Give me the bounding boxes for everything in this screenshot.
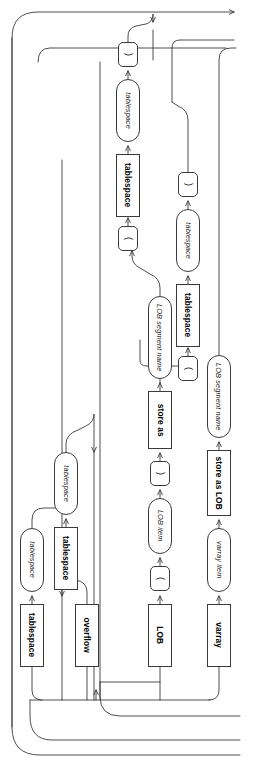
- paren-close-storage-left[interactable]: ): [118, 42, 138, 67]
- keyword-store-as-lob[interactable]: store as LOB: [207, 450, 231, 516]
- node-label: store as: [156, 404, 164, 437]
- keyword-tablespace-1[interactable]: tablespace: [20, 604, 44, 667]
- node-label: LOB item: [156, 510, 163, 542]
- keyword-tablespace-3[interactable]: tablespace: [176, 284, 200, 347]
- nonterminal-lob-segment-name-2[interactable]: LOB segment name: [207, 355, 231, 438]
- keyword-store-as[interactable]: store as: [148, 391, 172, 449]
- node-label: (: [184, 367, 193, 370]
- paren-open-storage-left[interactable]: (: [118, 226, 138, 251]
- nonterminal-tablespace-3[interactable]: tablespace: [176, 209, 200, 272]
- node-label: tablespace: [62, 536, 70, 580]
- keyword-varray[interactable]: varray: [207, 604, 231, 667]
- syntax-diagram-canvas: tablespace tablespace overflow tablespac…: [0, 0, 262, 765]
- node-label: (: [156, 577, 165, 580]
- node-label: tablespace: [62, 465, 69, 502]
- nonterminal-tablespace-4[interactable]: tablespace: [116, 79, 140, 142]
- paren-close-lob-list[interactable]: ): [150, 461, 170, 486]
- node-label: ): [156, 472, 165, 475]
- node-label: LOB: [156, 627, 164, 645]
- keyword-tablespace-4[interactable]: tablespace: [116, 154, 140, 217]
- keyword-overflow[interactable]: overflow: [75, 604, 99, 667]
- node-label: LOB segment name: [215, 363, 222, 430]
- keyword-tablespace-2[interactable]: tablespace: [54, 527, 78, 590]
- node-label: (: [124, 237, 133, 240]
- paren-open-storage-right[interactable]: (: [178, 356, 198, 381]
- node-label: tablespace: [124, 163, 132, 207]
- node-label: LOB segment name: [156, 304, 163, 371]
- node-label: ): [124, 53, 133, 56]
- node-label: ): [184, 183, 193, 186]
- nonterminal-tablespace-2[interactable]: tablespace: [54, 452, 78, 515]
- node-label: varray: [215, 623, 223, 649]
- node-label: tablespace: [184, 293, 192, 337]
- nonterminal-lob-segment-name-1[interactable]: LOB segment name: [148, 296, 172, 379]
- nonterminal-tablespace-1[interactable]: tablespace: [20, 528, 44, 592]
- paren-close-storage-right[interactable]: ): [178, 172, 198, 197]
- node-label: overflow: [83, 618, 91, 653]
- node-label: tablespace: [184, 222, 191, 259]
- node-label: tablespace: [28, 542, 35, 579]
- node-label: tablespace: [28, 613, 36, 657]
- node-label: varray item: [215, 541, 222, 579]
- node-label: tablespace: [124, 92, 131, 129]
- keyword-lob[interactable]: LOB: [148, 604, 172, 667]
- paren-open-lob-list[interactable]: (: [150, 566, 170, 591]
- nonterminal-lob-item[interactable]: LOB item: [148, 498, 172, 554]
- nonterminal-varray-item[interactable]: varray item: [207, 528, 231, 592]
- node-label: store as LOB: [215, 456, 223, 509]
